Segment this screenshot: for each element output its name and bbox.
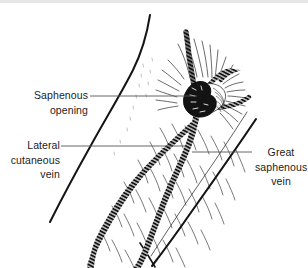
label-saphenous-opening: Saphenous opening	[8, 88, 88, 117]
saphenous-opening	[181, 79, 230, 119]
label-lateral-cutaneous-vein: Lateral cutaneous vein	[2, 138, 60, 182]
accessory-cutaneous-branch	[89, 165, 150, 266]
label-great-saphenous-vein: Great saphenous vein	[255, 145, 307, 189]
illustration-canvas	[0, 0, 308, 268]
medial-stipple-texture	[114, 58, 153, 155]
thigh-contour-lateral-inner	[151, 112, 247, 256]
anatomical-figure: Saphenous opening Lateral cutaneous vein…	[0, 0, 308, 268]
thigh-contour-medial	[50, 15, 150, 222]
